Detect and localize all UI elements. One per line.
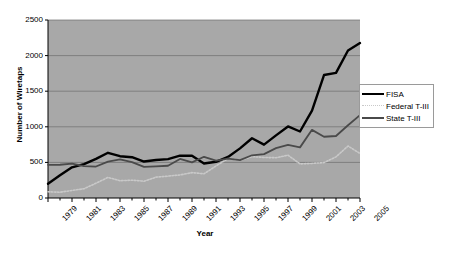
legend-item-federal-t-iii: Federal T-III bbox=[362, 100, 429, 112]
legend-item-fisa: FISA bbox=[362, 88, 429, 100]
legend-swatch-icon bbox=[362, 113, 384, 123]
y-tick-label-1500: 1500 bbox=[9, 87, 43, 95]
legend-label: FISA bbox=[386, 90, 404, 99]
legend-swatch-icon bbox=[362, 101, 384, 111]
legend-label: State T-III bbox=[386, 114, 421, 123]
chart-legend: FISAFederal T-IIIState T-III bbox=[359, 84, 434, 128]
wiretaps-line-chart: Number of Wiretaps Year 0500100015002000… bbox=[0, 0, 454, 255]
legend-item-state-t-iii: State T-III bbox=[362, 112, 429, 124]
y-tick-label-0: 0 bbox=[9, 194, 43, 202]
legend-label: Federal T-III bbox=[386, 102, 429, 111]
y-tick-label-2000: 2000 bbox=[9, 52, 43, 60]
x-axis-title: Year bbox=[140, 229, 270, 238]
y-tick-label-2500: 2500 bbox=[9, 16, 43, 24]
y-tick-label-1000: 1000 bbox=[9, 123, 43, 131]
y-tick-label-500: 500 bbox=[9, 158, 43, 166]
legend-swatch-icon bbox=[362, 89, 384, 99]
